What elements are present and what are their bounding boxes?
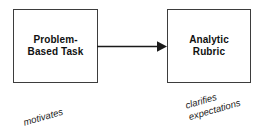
node-problem-based-task-label: Problem- Based Task (28, 34, 84, 58)
diagram-canvas: Problem- Based Task Analytic Rubric moti… (0, 0, 264, 136)
node-problem-based-task[interactable]: Problem- Based Task (13, 9, 98, 83)
arrowhead-icon (157, 41, 167, 52)
edge-task-to-rubric[interactable] (96, 38, 168, 55)
edge-label-motivates: motivates (22, 106, 64, 129)
node-analytic-rubric[interactable]: Analytic Rubric (167, 9, 251, 83)
edge-label-clarifies-expectations: clarifies expectations (184, 85, 242, 123)
node-analytic-rubric-label: Analytic Rubric (189, 34, 229, 58)
